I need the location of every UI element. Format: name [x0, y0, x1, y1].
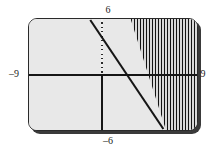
calculator-screen: [28, 18, 198, 131]
x-max-label: 9: [201, 69, 206, 79]
screen-background: [29, 19, 197, 130]
x-min-label: –9: [9, 69, 19, 79]
graph-figure: 6 –6 –9 9: [0, 0, 209, 152]
inequality-boundary-line: [29, 19, 197, 130]
y-max-label: 6: [106, 5, 111, 15]
y-min-label: –6: [103, 136, 113, 146]
